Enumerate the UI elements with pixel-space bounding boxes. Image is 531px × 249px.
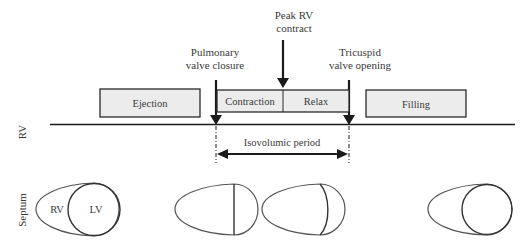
phase-isovolumic: Contraction Relax [217,90,349,112]
contraction-label: Contraction [225,96,275,107]
down-arrow-icon [343,115,355,125]
isovolumic-period-label: Isovolumic period [244,137,321,148]
tricuspid-label-line2: valve opening [329,59,392,71]
rv-chamber-label: RV [50,204,64,215]
cardiac-cycle-diagram: Peak RV contract Pulmonary valve closure… [0,0,531,249]
rv-row-label: RV [16,125,28,139]
septum-normal-diagram-2 [428,184,512,235]
septum-bowed-diagram [262,184,345,235]
phase-ejection: Ejection [100,89,200,117]
tricuspid-label-line1: Tricuspid [339,46,381,58]
pulmonary-label-line2: valve closure [186,59,244,71]
lv-chamber-label: LV [89,204,102,215]
isovolumic-period-span: Isovolumic period [217,137,348,159]
filling-label: Filling [402,99,431,110]
peak-rv-label-line2: contract [276,22,311,34]
ejection-label: Ejection [133,98,169,109]
septum-row-label: Septum [16,193,28,227]
septum-flat-diagram [175,184,258,235]
peak-rv-label-line1: Peak RV [275,9,314,21]
right-arrow-icon [337,149,348,159]
peak-rv-contract-event: Peak RV contract [275,9,314,88]
relax-label: Relax [304,96,329,107]
down-arrow-icon [277,78,289,88]
left-arrow-icon [217,149,228,159]
septum-normal-diagram: RV LV [36,183,120,236]
down-arrow-icon [210,115,222,125]
pulmonary-label-line1: Pulmonary [191,46,240,58]
phase-filling: Filling [366,90,466,117]
